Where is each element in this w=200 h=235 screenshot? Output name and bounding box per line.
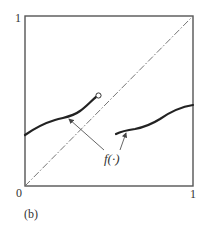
function-label: f(·) [104,151,120,166]
origin-label: 0 [16,186,22,200]
x-axis-max-label: 1 [190,187,196,201]
left-curve-branch [25,97,96,135]
open-circle-endpoint [96,93,101,98]
label-arrow-right [120,133,126,150]
y-axis-max-label: 1 [15,11,21,25]
function-diagram: f(·) 1 0 1 (b) [0,0,200,235]
right-curve-branch [116,105,193,134]
function-label-text: f(·) [104,151,120,166]
panel-label: (b) [24,207,38,221]
